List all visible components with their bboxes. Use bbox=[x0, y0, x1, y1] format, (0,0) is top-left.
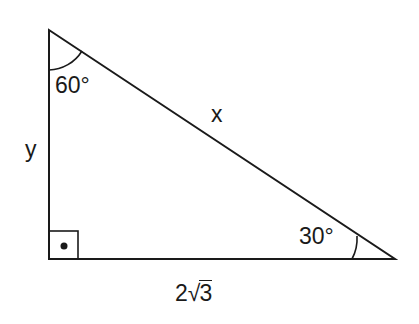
angle-arc-60 bbox=[49, 51, 82, 70]
angle-arc-30 bbox=[352, 236, 357, 259]
angle-label-30: 30° bbox=[299, 225, 334, 248]
angle-label-60: 60° bbox=[55, 74, 90, 97]
hypotenuse-label: x bbox=[211, 103, 223, 126]
horizontal-leg-label: 2√3 bbox=[175, 280, 212, 305]
horizontal-leg-radicand: 3 bbox=[199, 280, 212, 305]
triangle-diagram bbox=[0, 0, 419, 324]
right-angle-dot bbox=[61, 243, 68, 250]
vertical-leg-label: y bbox=[25, 138, 37, 161]
horizontal-leg-coefficient: 2 bbox=[175, 280, 188, 306]
triangle-outline bbox=[49, 30, 395, 259]
